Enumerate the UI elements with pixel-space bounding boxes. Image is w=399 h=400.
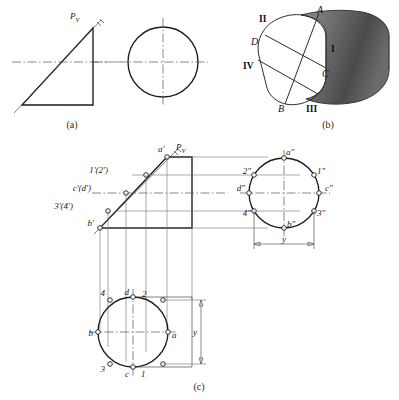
- figure-b-chord-AB: [285, 13, 319, 104]
- side-label-d: d": [237, 183, 246, 193]
- top-label-1: 1: [141, 369, 146, 379]
- top-point-3: [108, 362, 113, 367]
- figure-b-cylinder-body: [301, 10, 389, 104]
- side-point-b: [282, 226, 287, 231]
- figure-b-caption: (b): [322, 119, 334, 131]
- side-point-d: [247, 191, 252, 196]
- top-point-b: [96, 330, 101, 335]
- figure-b-cut-ellipse: [258, 15, 326, 105]
- top-label-b: b: [89, 328, 94, 338]
- figure-b-label-III: III: [306, 104, 317, 114]
- figure-c-group: PV a' 1'(2') c'(d') 3'(4') b': [53, 142, 333, 393]
- figure-b-label-C: C: [322, 68, 329, 79]
- front-label-12: 1'(2'): [89, 165, 108, 175]
- side-label-a: a": [286, 147, 295, 157]
- side-dim-label-y: y: [281, 234, 286, 244]
- front-label-a: a': [158, 144, 166, 154]
- figure-b-label-B: B: [278, 103, 284, 114]
- top-point-a: [166, 330, 171, 335]
- figure-b-label-A: A: [316, 4, 324, 15]
- top-point-4: [108, 298, 113, 303]
- top-label-c: c: [125, 369, 129, 379]
- top-point-c: [131, 365, 136, 370]
- top-label-d: d: [125, 287, 130, 297]
- side-label-c: c": [325, 183, 333, 193]
- diagram-canvas: PV (a): [0, 0, 399, 400]
- side-point-c: [317, 191, 322, 196]
- top-label-a: a: [172, 330, 177, 340]
- side-label-3: 3": [316, 208, 326, 218]
- engineering-drawing-svg: PV (a): [0, 0, 399, 400]
- front-label-b: b': [88, 218, 96, 228]
- figure-a-cutting-plane-line: [14, 20, 101, 113]
- figure-a-group: PV (a): [12, 11, 208, 131]
- figure-b-label-IV: IV: [243, 61, 254, 71]
- figure-a-caption: (a): [66, 119, 77, 131]
- top-label-3: 3: [100, 364, 106, 374]
- side-label-4: 4": [243, 208, 252, 218]
- front-label-34: 3'(4'): [53, 201, 73, 211]
- figure-b-chord-II-I: [265, 35, 326, 68]
- side-point-2: [252, 173, 257, 178]
- side-label-2: 2": [243, 166, 252, 176]
- top-point-d: [131, 295, 136, 300]
- figure-b-label-D: D: [250, 36, 259, 47]
- figure-b-group: A B C D I II III IV (b): [243, 4, 389, 131]
- side-label-b: b": [287, 219, 296, 229]
- top-label-2: 2: [142, 289, 147, 299]
- side-point-1: [312, 173, 317, 178]
- figure-b-label-I: I: [331, 44, 335, 54]
- figure-a-pv-label: PV: [69, 11, 81, 23]
- figure-c-top-view: a b c d 2 1 4 3 y: [89, 287, 207, 379]
- figure-c-caption: (c): [193, 381, 204, 393]
- front-view-pv-label: PV: [175, 142, 187, 154]
- front-view-cutting-plane: [94, 149, 178, 234]
- figure-c-side-view: a" 1" 2" 3" 4" b" c" d" y: [237, 147, 333, 249]
- figure-a-pv-tick-2: [100, 19, 104, 23]
- figure-b-label-II: II: [259, 14, 267, 24]
- top-dim-label-y: y: [192, 327, 197, 337]
- top-label-4: 4: [101, 288, 106, 298]
- side-label-1: 1": [317, 166, 326, 176]
- front-label-cd: c'(d'): [73, 183, 91, 193]
